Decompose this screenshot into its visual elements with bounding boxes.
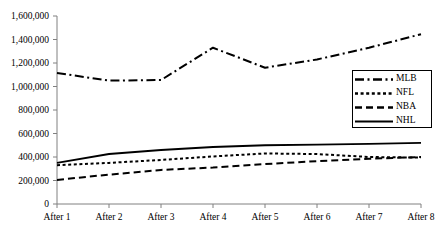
x-axis-tick-label: After 3 bbox=[131, 212, 191, 222]
x-axis-tick-label: After 4 bbox=[183, 212, 243, 222]
y-axis-tick-label: 800,000 bbox=[0, 105, 49, 115]
x-axis-tick-label: After 5 bbox=[235, 212, 295, 222]
x-axis-tick-label: After 7 bbox=[339, 212, 399, 222]
x-axis-tick-label: After 1 bbox=[27, 212, 87, 222]
x-axis-ticks bbox=[57, 204, 421, 208]
x-axis-tick-label: After 2 bbox=[79, 212, 139, 222]
y-axis-tick-label: 1,000,000 bbox=[0, 82, 49, 92]
series-line-nba bbox=[57, 157, 421, 180]
chart-legend: MLBNFLNBANHL bbox=[352, 70, 432, 128]
legend-swatch-mlb-icon bbox=[353, 72, 395, 85]
legend-label-nba: NBA bbox=[395, 101, 416, 111]
legend-item-nfl[interactable]: NFL bbox=[353, 85, 431, 99]
line-chart: 1,600,0001,400,0001,200,0001,000,000800,… bbox=[0, 0, 441, 231]
y-axis-tick-label: 600,000 bbox=[0, 129, 49, 139]
series-line-nhl bbox=[57, 143, 421, 163]
legend-swatch-nfl-icon bbox=[353, 86, 395, 99]
y-axis-tick-label: 1,400,000 bbox=[0, 35, 49, 45]
legend-item-nhl[interactable]: NHL bbox=[353, 113, 431, 127]
legend-swatch-nhl-icon bbox=[353, 114, 395, 127]
y-axis-tick-label: 200,000 bbox=[0, 176, 49, 186]
legend-label-mlb: MLB bbox=[395, 73, 417, 83]
y-axis-tick-label: 1,600,000 bbox=[0, 11, 49, 21]
x-axis-tick-label: After 8 bbox=[391, 212, 441, 222]
legend-item-nba[interactable]: NBA bbox=[353, 99, 431, 113]
x-axis-tick-label: After 6 bbox=[287, 212, 347, 222]
legend-label-nfl: NFL bbox=[395, 87, 414, 97]
y-axis-tick-label: 400,000 bbox=[0, 152, 49, 162]
legend-item-mlb[interactable]: MLB bbox=[353, 71, 431, 85]
legend-swatch-nba-icon bbox=[353, 100, 395, 113]
y-axis-ticks bbox=[53, 16, 57, 204]
legend-label-nhl: NHL bbox=[395, 115, 416, 125]
y-axis-tick-label: 1,200,000 bbox=[0, 58, 49, 68]
y-axis-tick-label: 0 bbox=[0, 199, 49, 209]
